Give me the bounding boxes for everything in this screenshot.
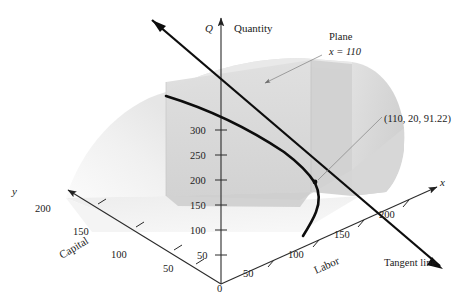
axis-labor-symbol: x (439, 176, 445, 188)
quantity-tick-50: 50 (197, 250, 208, 261)
capital-tick-150: 150 (73, 226, 89, 237)
tangency-point-label: (110, 20, 91.22) (384, 113, 451, 125)
tangent-line-label: Tangent line (384, 257, 436, 268)
origin-label: 0 (217, 283, 222, 294)
quantity-tick-300: 300 (190, 125, 206, 136)
quantity-tick-250: 250 (190, 150, 206, 161)
capital-tick-200: 200 (35, 203, 51, 214)
labor-tick-200: 200 (379, 209, 395, 220)
labor-tick-50: 50 (243, 268, 254, 279)
quantity-tick-200: 200 (190, 175, 206, 186)
axis-capital-name: Capital (57, 234, 90, 261)
axis-quantity-name: Quantity (234, 22, 273, 34)
plane-right-band (311, 60, 352, 196)
axis-labor-name: Labor (312, 254, 341, 276)
plane-face (166, 60, 311, 196)
plane-annotation-line1: Plane (329, 31, 353, 42)
capital-tick-50: 50 (163, 263, 174, 274)
quantity-tick-150: 150 (190, 200, 206, 211)
axis-quantity-symbol: Q (205, 22, 213, 34)
quantity-tick-100: 100 (190, 225, 206, 236)
capital-tick-100: 100 (111, 249, 127, 260)
tangency-point-marker (313, 180, 318, 185)
axis-capital-symbol: y (11, 185, 17, 197)
surface-left-wing (66, 92, 166, 198)
labor-tick-150: 150 (334, 229, 350, 240)
plane-annotation-line2: x = 110 (328, 46, 362, 57)
figure-3d-surface-plot: Q Quantity y Capital x Labor 300 250 200… (0, 0, 475, 301)
labor-tick-100: 100 (288, 249, 304, 260)
